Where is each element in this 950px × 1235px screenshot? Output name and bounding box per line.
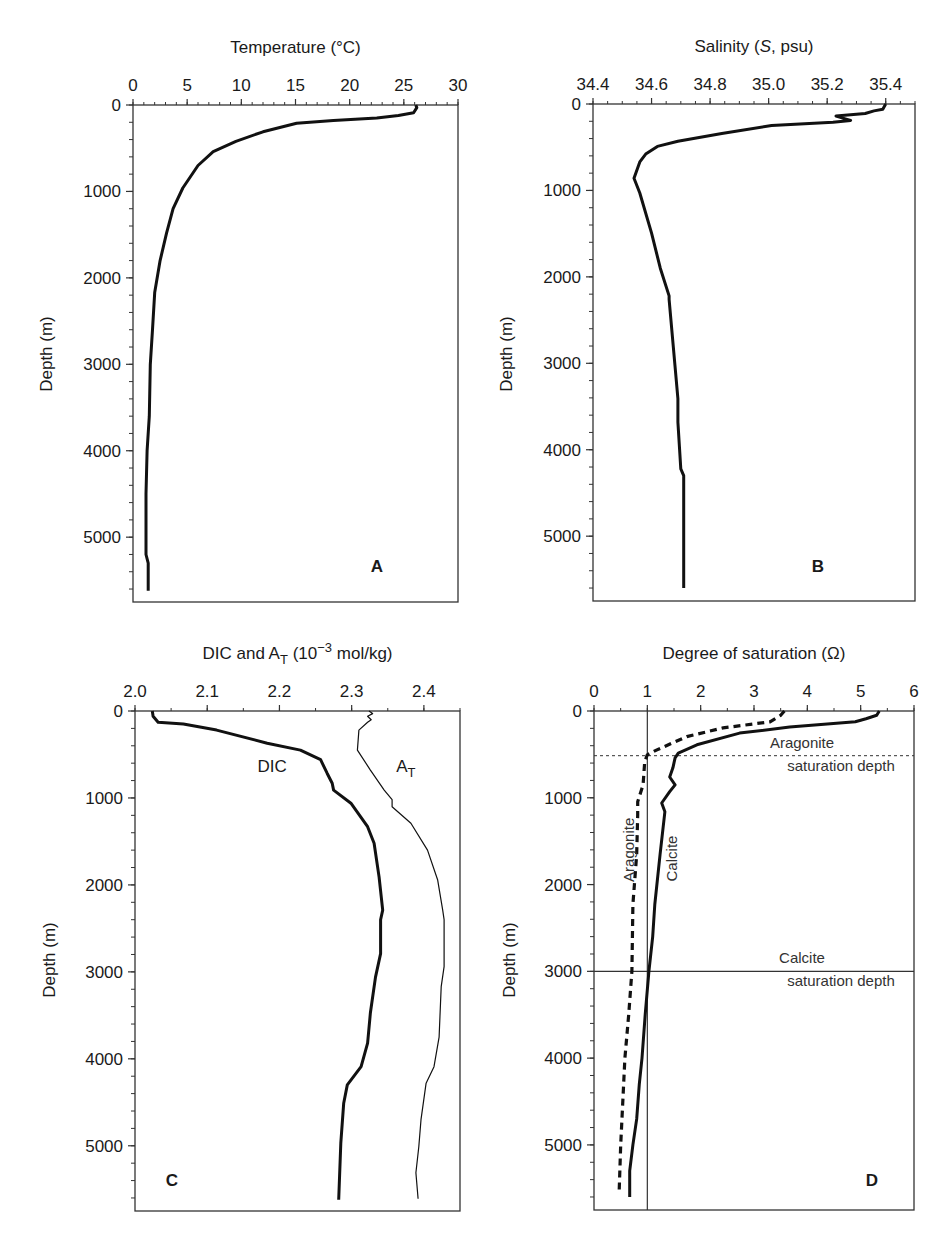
y-tick-label: 1000 [544, 789, 582, 808]
x-tick-label: 4 [803, 682, 812, 701]
panel-letter: A [371, 557, 383, 576]
y-tick-label: 1000 [543, 181, 581, 200]
y-axis: 010002000300040005000 [543, 95, 593, 588]
x-tick-label: 25 [394, 76, 413, 95]
x-tick-label: 35.0 [752, 75, 785, 94]
x-tick-label: 5 [182, 76, 191, 95]
x-tick-label: 3 [749, 682, 758, 701]
series-a-t [357, 711, 444, 1199]
y-tick-label: 1000 [85, 789, 123, 808]
y-tick-label: 4000 [543, 441, 581, 460]
series-calcite [630, 711, 880, 1197]
series-salinity [634, 104, 886, 588]
y-tick-label: 2000 [85, 876, 123, 895]
x-tick-label: 35.2 [811, 75, 844, 94]
x-tick-label: 2.0 [123, 682, 147, 701]
x-tick-label: 35.4 [869, 75, 902, 94]
y-tick-label: 5000 [544, 1136, 582, 1155]
x-tick-label: 34.6 [635, 75, 668, 94]
panel-letter: B [812, 557, 824, 576]
y-tick-label: 5000 [543, 527, 581, 546]
plot-frame [133, 105, 458, 602]
plot-frame [594, 711, 914, 1210]
y-tick-label: 5000 [83, 528, 121, 547]
y-axis-title: Depth (m) [500, 922, 519, 998]
x-tick-label: 15 [286, 76, 305, 95]
panel-a: 051015202530Temperature (°C)010002000300… [37, 38, 467, 602]
x-tick-label: 6 [909, 682, 918, 701]
x-tick-label: 34.8 [694, 75, 727, 94]
x-axis: 2.02.12.22.32.4 [123, 682, 460, 711]
x-axis-title: DIC and AT (10−3 mol/kg) [202, 640, 392, 667]
y-tick-label: 2000 [543, 268, 581, 287]
y-tick-label: 0 [114, 702, 123, 721]
y-axis-title: Depth (m) [40, 922, 59, 998]
y-tick-label: 0 [573, 702, 582, 721]
x-tick-label: 2.1 [195, 682, 219, 701]
x-axis-title: Salinity (S, psu) [694, 37, 813, 56]
x-tick-label: 30 [449, 76, 468, 95]
y-tick-label: 2000 [83, 269, 121, 288]
y-tick-label: 2000 [544, 876, 582, 895]
x-tick-label: 2 [696, 682, 705, 701]
x-tick-label: 2.3 [340, 682, 364, 701]
series-label-calcite: Calcite [663, 836, 680, 882]
calcite-saturation-depth-label-line1: Calcite [779, 949, 825, 966]
series-temperature [146, 105, 417, 591]
panel-b: 34.434.634.835.035.235.4Salinity (S, psu… [497, 37, 915, 601]
plot-frame [135, 711, 460, 1211]
figure: 051015202530Temperature (°C)010002000300… [0, 0, 950, 1235]
x-tick-label: 10 [232, 76, 251, 95]
y-tick-label: 3000 [83, 355, 121, 374]
x-axis: 0123456 [589, 682, 918, 711]
y-axis: 010002000300040005000 [83, 96, 133, 589]
y-tick-label: 0 [112, 96, 121, 115]
x-tick-label: 2.4 [412, 682, 436, 701]
aragonite-saturation-depth-label-line2: saturation depth [787, 757, 895, 774]
y-axis-title: Depth (m) [37, 316, 56, 392]
y-tick-label: 3000 [543, 354, 581, 373]
y-tick-label: 4000 [544, 1049, 582, 1068]
y-axis-title: Depth (m) [497, 316, 516, 392]
y-axis: 010002000300040005000 [85, 702, 135, 1198]
panel-letter: D [866, 1171, 878, 1190]
x-tick-label: 0 [589, 682, 598, 701]
y-tick-label: 5000 [85, 1137, 123, 1156]
x-axis-title: Degree of saturation (Ω) [663, 644, 846, 663]
x-tick-label: 1 [643, 682, 652, 701]
calcite-saturation-depth-label-line2: saturation depth [787, 972, 895, 989]
x-tick-label: 5 [856, 682, 865, 701]
x-tick-label: 2.2 [268, 682, 292, 701]
y-tick-label: 3000 [544, 962, 582, 981]
y-tick-label: 1000 [83, 182, 121, 201]
panel-d: 0123456Degree of saturation (Ω)010002000… [500, 644, 919, 1210]
x-axis: 051015202530 [128, 76, 467, 105]
series-label-dic: DIC [258, 757, 287, 776]
y-tick-label: 3000 [85, 963, 123, 982]
panel-letter: C [166, 1171, 178, 1190]
plot-frame [593, 104, 915, 601]
x-axis-title: Temperature (°C) [230, 38, 361, 57]
x-tick-label: 0 [128, 76, 137, 95]
series-aragonite [619, 711, 784, 1194]
series-dic [152, 711, 382, 1200]
series-label-aragonite: Aragonite [620, 818, 637, 882]
aragonite-saturation-depth-label-line1: Aragonite [770, 734, 834, 751]
y-tick-label: 0 [572, 95, 581, 114]
x-axis: 34.434.634.835.035.235.4 [576, 75, 915, 104]
y-axis: 010002000300040005000 [544, 702, 594, 1197]
x-tick-label: 34.4 [576, 75, 609, 94]
y-tick-label: 4000 [85, 1050, 123, 1069]
x-tick-label: 20 [340, 76, 359, 95]
y-tick-label: 4000 [83, 442, 121, 461]
panel-c: 2.02.12.22.32.4DIC and AT (10−3 mol/kg)0… [40, 640, 460, 1211]
figure-canvas: 051015202530Temperature (°C)010002000300… [0, 0, 950, 1235]
series-label-at: AT [396, 757, 415, 780]
